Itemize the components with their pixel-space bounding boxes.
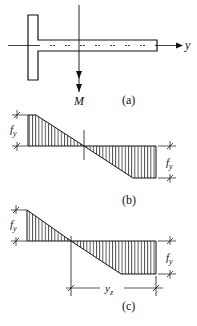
svg-text:fy: fy	[166, 251, 173, 266]
left-fy-dimension: fy	[10, 110, 28, 151]
compression-stress-block	[84, 146, 156, 178]
panel-b: fy fy (b)	[10, 110, 176, 207]
yz-dimension: yz	[66, 282, 163, 297]
panel-c: fy fy yz (c)	[10, 205, 176, 313]
panel-c-label: (c)	[122, 299, 135, 313]
stress-distribution-figure: y M (a) fy	[0, 0, 197, 326]
panel-b-label: (b)	[122, 193, 136, 207]
tension-stress-block	[28, 115, 84, 146]
svg-text:fy: fy	[166, 156, 173, 171]
panel-a-label: (a)	[122, 93, 135, 107]
moment-arrowhead-2-icon	[76, 84, 82, 92]
compression-stress-block	[71, 241, 156, 274]
svg-text:fy: fy	[10, 123, 17, 138]
y-axis-label: y	[184, 38, 191, 52]
left-fy-dimension: fy	[10, 205, 27, 246]
svg-text:fy: fy	[10, 218, 17, 233]
svg-text:yz: yz	[104, 282, 114, 297]
moment-label: M	[73, 94, 85, 108]
y-axis-arrow-icon	[176, 43, 183, 49]
panel-a: y M (a)	[8, 5, 191, 108]
right-fy-dimension: fy	[158, 141, 176, 183]
moment-arrowhead-1-icon	[76, 71, 82, 79]
tension-stress-block	[27, 210, 71, 241]
right-fy-dimension: fy	[158, 236, 176, 279]
t-section-outline	[28, 15, 157, 80]
